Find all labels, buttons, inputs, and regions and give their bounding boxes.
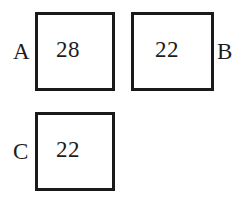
diagram-canvas: 28 A 22 B 22 C bbox=[0, 0, 249, 201]
square-a-label: A bbox=[13, 40, 30, 63]
square-b-label: B bbox=[217, 40, 232, 63]
square-b-value: 22 bbox=[155, 38, 179, 61]
square-c-value: 22 bbox=[56, 138, 80, 161]
square-a-value: 28 bbox=[56, 38, 80, 61]
square-c-label: C bbox=[13, 140, 28, 163]
